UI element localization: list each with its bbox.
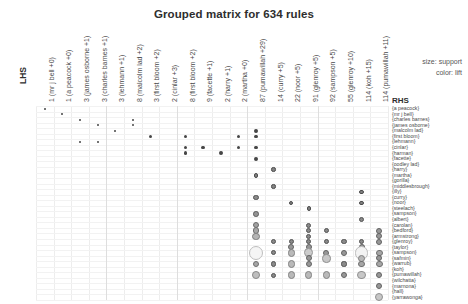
lhs-tick-label: 55 (glenroy +10) [347,51,354,102]
lhs-tick-label: 1 (mr j bell +0) [48,57,55,102]
lhs-tick-label: 2 (harry +1) [224,66,231,102]
lhs-tick-label: 114 (pumawillah +11) [382,36,389,102]
lhs-tick-label: 91 (glenroy +5) [312,55,319,102]
lhs-tick-label: 3 (lehmann +1) [118,55,125,102]
lhs-tick-label: 22 (noor +5) [294,64,301,102]
lhs-tick-label: 92 (sampson +5) [329,49,336,102]
lhs-tick-label: 2 (cinlar +3) [171,65,178,102]
lhs-tick-label: 87 (pumawillah +29) [259,39,266,102]
lhs-tick-label: 14 (curry +5) [277,62,284,102]
rhs-tick-labels: {a peacock}{mr j bell}{charles barnes}{j… [392,0,468,304]
lhs-tick-label: 3 (first bloom +2) [153,49,160,102]
rhs-tick-label: {yarrawonga} [392,295,423,300]
grouped-matrix-plot: Grouped matrix for 634 rules size: suppo… [0,0,468,304]
lhs-tick-label: 2 (martha +0) [241,60,248,102]
lhs-tick-label: 3 (james osborne +1) [83,36,90,102]
lhs-tick-label: 8 (malcolm lad +2) [136,44,143,102]
lhs-tick-label: 8 (first bloom +2) [189,49,196,102]
lhs-tick-label: 1 (a peacock +0) [65,50,72,102]
lhs-tick-label: 3 (charles barnes +1) [101,36,108,102]
lhs-tick-label: 114 (koh +15) [365,59,372,102]
lhs-tick-label: 9 (facette +1) [206,61,213,102]
